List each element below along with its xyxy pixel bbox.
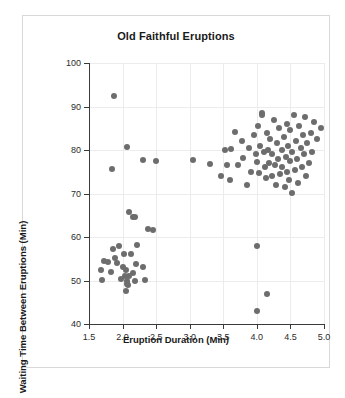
y-tick-label: 100: [66, 58, 81, 68]
scatter-point: [301, 151, 307, 157]
scatter-point: [298, 145, 304, 151]
scatter-point: [255, 123, 261, 129]
x-tick-mark: [123, 324, 124, 329]
scatter-point: [111, 93, 117, 99]
y-tick-label: 60: [71, 232, 81, 242]
y-tick-mark: [84, 150, 89, 151]
scatter-point: [109, 166, 115, 172]
scatter-point: [257, 143, 263, 149]
scatter-point: [190, 157, 196, 163]
scatter-point: [235, 162, 241, 168]
scatter-point: [276, 125, 282, 131]
scatter-point: [272, 162, 278, 168]
scatter-point: [246, 145, 252, 151]
scatter-point: [123, 267, 129, 273]
scatter-point: [121, 251, 127, 257]
scatter-point: [287, 158, 293, 164]
scatter-point: [291, 112, 297, 118]
scatter-point: [299, 164, 305, 170]
scatter-point: [248, 169, 254, 175]
scatter-point: [153, 158, 159, 164]
scatter-point: [123, 288, 129, 294]
x-tick-mark: [324, 324, 325, 329]
x-tick-mark: [257, 324, 258, 329]
gridline-horizontal: [90, 63, 324, 64]
scatter-point: [300, 132, 306, 138]
scatter-point: [125, 282, 131, 288]
scatter-point: [277, 171, 283, 177]
scatter-point: [259, 112, 265, 118]
scatter-point: [244, 182, 250, 188]
scatter-point: [295, 180, 301, 186]
scatter-point: [99, 277, 105, 283]
scatter-point: [303, 173, 309, 179]
y-tick-mark: [84, 63, 89, 64]
scatter-point: [142, 277, 148, 283]
scatter-point: [318, 125, 324, 131]
scatter-point: [282, 184, 288, 190]
y-tick-label: 90: [71, 102, 81, 112]
scatter-point: [263, 175, 269, 181]
gridline-horizontal: [90, 237, 324, 238]
scatter-point: [116, 243, 122, 249]
scatter-plot-area: 405060708090100 1.52.02.53.03.54.04.55.0: [89, 63, 324, 324]
scatter-point: [134, 242, 140, 248]
gridline-horizontal: [90, 107, 324, 108]
x-tick-mark: [190, 324, 191, 329]
gridline-vertical: [223, 63, 224, 324]
y-tick-label: 80: [71, 145, 81, 155]
x-tick-mark: [223, 324, 224, 329]
scatter-point: [128, 251, 134, 257]
scatter-point: [289, 149, 295, 155]
scatter-point: [292, 167, 298, 173]
y-tick-mark: [84, 194, 89, 195]
scatter-point: [294, 156, 300, 162]
scatter-point: [274, 140, 280, 146]
scatter-point: [150, 227, 156, 233]
scatter-point: [207, 161, 213, 167]
scatter-point: [267, 136, 273, 142]
gridline-vertical: [324, 63, 325, 324]
scatter-point: [271, 117, 277, 123]
scatter-point: [224, 162, 230, 168]
gridline-vertical: [190, 63, 191, 324]
scatter-point: [222, 147, 228, 153]
scatter-point: [132, 214, 138, 220]
scatter-point: [253, 151, 259, 157]
scatter-point: [269, 173, 275, 179]
scatter-point: [308, 130, 314, 136]
y-tick-label: 50: [71, 276, 81, 286]
scatter-point: [251, 132, 257, 138]
scatter-point: [130, 270, 136, 276]
scatter-point: [293, 138, 299, 144]
scatter-point: [284, 169, 290, 175]
scatter-point: [256, 170, 262, 176]
scatter-point: [105, 259, 111, 265]
scatter-point: [314, 136, 320, 142]
scatter-point: [133, 261, 139, 267]
scatter-point: [110, 246, 116, 252]
scatter-point: [264, 291, 270, 297]
scatter-point: [287, 127, 293, 133]
scatter-point: [275, 156, 281, 162]
scatter-point: [254, 159, 260, 165]
scatter-point: [304, 140, 310, 146]
scatter-point: [232, 129, 238, 135]
scatter-point: [273, 182, 279, 188]
chart-title: Old Faithful Eruptions: [23, 30, 329, 42]
scatter-point: [296, 123, 302, 129]
scatter-point: [140, 157, 146, 163]
chart-figure-frame: Old Faithful Eruptions 405060708090100 1…: [22, 15, 330, 368]
y-tick-mark: [84, 237, 89, 238]
scatter-point: [254, 308, 260, 314]
scatter-point: [281, 134, 287, 140]
y-tick-label: 70: [71, 189, 81, 199]
gridline-vertical: [156, 63, 157, 324]
x-tick-mark: [156, 324, 157, 329]
scatter-point: [140, 264, 146, 270]
scatter-point: [98, 267, 104, 273]
scatter-point: [309, 149, 315, 155]
x-tick-mark: [290, 324, 291, 329]
scatter-point: [239, 138, 245, 144]
scatter-point: [284, 121, 290, 127]
